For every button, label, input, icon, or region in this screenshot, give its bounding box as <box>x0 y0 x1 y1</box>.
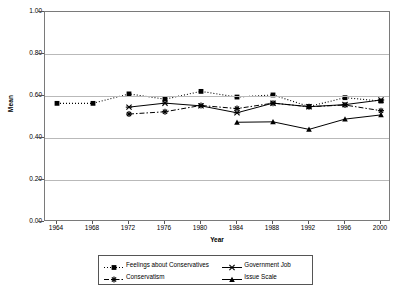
legend-marker <box>112 265 117 270</box>
data-point <box>162 109 168 115</box>
gridline <box>45 96 389 97</box>
legend-swatch-square-dotted-icon <box>103 259 125 270</box>
series-line-0 <box>57 91 381 106</box>
gridline <box>45 138 389 139</box>
x-tick-label: 1992 <box>288 224 328 231</box>
legend-label: Feelings about Conservatives <box>125 261 209 268</box>
legend-marker <box>229 264 235 269</box>
y-tick-mark <box>38 221 44 222</box>
x-tick-mark <box>344 221 345 224</box>
legend-swatch-plus-dashdot-icon <box>103 271 125 282</box>
data-point <box>199 89 204 94</box>
chart-legend: Feelings about Conservatives Government … <box>98 255 313 285</box>
x-tick-label: 1996 <box>324 224 364 231</box>
series-layer <box>45 12 391 222</box>
x-tick-mark <box>200 221 201 224</box>
y-tick-mark <box>38 95 44 96</box>
legend-item-conservatism[interactable]: Conservatism <box>103 270 221 282</box>
data-point <box>270 100 276 106</box>
legend-item-feelings-about-conservatives[interactable]: Feelings about Conservatives <box>103 258 221 270</box>
y-tick-mark <box>38 11 44 12</box>
y-tick-mark <box>38 137 44 138</box>
y-tick-label: 1.00 <box>8 8 42 15</box>
data-point <box>55 101 60 106</box>
y-tick-mark <box>38 53 44 54</box>
gridline <box>45 54 389 55</box>
legend-label: Conservatism <box>125 273 165 280</box>
x-tick-label: 1984 <box>216 224 256 231</box>
x-tick-label: 1980 <box>180 224 220 231</box>
y-tick-mark <box>38 179 44 180</box>
x-tick-mark <box>380 221 381 224</box>
x-tick-label: 1988 <box>252 224 292 231</box>
x-tick-mark <box>272 221 273 224</box>
x-tick-label: 1964 <box>36 224 76 231</box>
legend-marker <box>111 276 117 282</box>
x-tick-mark <box>56 221 57 224</box>
data-point <box>126 111 132 117</box>
x-tick-label: 1972 <box>108 224 148 231</box>
legend-swatch-triangle-solid-icon <box>221 271 243 282</box>
x-tick-mark <box>164 221 165 224</box>
x-tick-label: 1968 <box>72 224 112 231</box>
x-tick-mark <box>236 221 237 224</box>
y-axis-tick-labels: 0.000.200.400.600.801.00 <box>8 0 42 232</box>
legend-row: Conservatism Issue Scale <box>103 270 308 282</box>
data-point <box>91 101 96 106</box>
legend-item-government-job[interactable]: Government Job <box>221 258 308 270</box>
data-point <box>126 105 132 110</box>
legend-label: Government Job <box>243 261 291 268</box>
x-axis-title: Year <box>44 236 390 243</box>
x-tick-label: 1976 <box>144 224 184 231</box>
x-tick-mark <box>92 221 93 224</box>
data-point <box>198 102 204 108</box>
y-tick-label: 0.40 <box>8 134 42 141</box>
legend-row: Feelings about Conservatives Government … <box>103 258 308 270</box>
legend-item-issue-scale[interactable]: Issue Scale <box>221 270 308 282</box>
chart-figure: Mean 0.000.200.400.600.801.00 1964196819… <box>0 0 405 296</box>
legend-label: Issue Scale <box>243 273 277 280</box>
data-point <box>306 104 312 110</box>
y-tick-label: 0.20 <box>8 176 42 183</box>
data-point <box>342 102 348 108</box>
y-tick-label: 0.60 <box>8 92 42 99</box>
legend-swatch-x-solid-icon <box>221 259 243 270</box>
x-tick-mark <box>128 221 129 224</box>
data-point <box>234 106 240 112</box>
y-tick-label: 0.80 <box>8 50 42 57</box>
gridline <box>45 180 389 181</box>
x-tick-label: 2000 <box>360 224 400 231</box>
plot-area <box>44 11 390 221</box>
x-tick-mark <box>308 221 309 224</box>
